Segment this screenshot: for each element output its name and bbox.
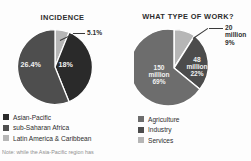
incidence-chart-panel: INCIDENCE 18% 26.4% 5.1% Asian-Pacific (0, 0, 125, 161)
callout-services-percent: 9% (225, 39, 246, 46)
work-type-chart-title: WHAT TYPE OF WORK? (125, 12, 251, 21)
work-type-chart-panel: WHAT TYPE OF WORK? 150 million 69% 48 mi… (125, 0, 251, 161)
slice-label-industry-percent: 22% (184, 70, 210, 77)
work-type-legend: Agriculture Industry Services (125, 114, 251, 146)
legend-swatch-icon-services (138, 137, 144, 143)
legend-swatch-icon-industry (138, 127, 144, 133)
legend-item-sub-saharan[interactable]: sub-Saharan Africa (3, 123, 128, 133)
legend-swatch-icon-latin-america (3, 135, 9, 141)
legend-item-industry[interactable]: Industry (138, 125, 251, 135)
legend-label-services: Services (148, 137, 173, 144)
incidence-pie-chart: 18% 26.4% (16, 28, 94, 106)
slice-label-agriculture-amount: 150 (142, 64, 176, 71)
legend-item-asian-pacific[interactable]: Asian-Pacific (3, 112, 128, 122)
legend-label-latin-america: Latin America & Caribbean (13, 135, 91, 142)
slice-label-agriculture: 150 million 69% (142, 64, 176, 85)
infographic-canvas: INCIDENCE 18% 26.4% 5.1% Asian-Pacific (0, 0, 251, 161)
leader-line-services-horizontal (209, 28, 223, 29)
legend-label-sub-saharan: sub-Saharan Africa (13, 124, 69, 131)
footnote-text: Note: while the Asia-Pacific region has (2, 149, 132, 155)
legend-label-industry: Industry (148, 126, 171, 133)
callout-latin-america: 5.1% (87, 29, 102, 36)
legend-item-latin-america[interactable]: Latin America & Caribbean (3, 133, 128, 143)
legend-swatch-icon-agriculture (138, 116, 144, 122)
legend-label-agriculture: Agriculture (148, 116, 180, 123)
leader-line-latin-america-horizontal (73, 33, 85, 34)
slice-label-industry: 48 million 22% (184, 56, 210, 77)
legend-item-agriculture[interactable]: Agriculture (138, 114, 251, 124)
legend-swatch-icon-sub-saharan (3, 125, 9, 131)
incidence-chart-title: INCIDENCE (0, 13, 125, 22)
legend-item-services[interactable]: Services (138, 135, 251, 145)
callout-services: 20 million 9% (225, 24, 246, 46)
slice-label-agriculture-unit: million (142, 71, 176, 78)
slice-label-asian-pacific: 18% (59, 61, 73, 69)
legend-swatch-icon-asian-pacific (3, 114, 9, 120)
slice-label-industry-unit: million (184, 63, 210, 70)
callout-services-amount: 20 (225, 24, 246, 31)
work-type-pie-chart: 150 million 69% 48 million 22% (134, 28, 214, 108)
slice-label-agriculture-percent: 69% (142, 78, 176, 85)
callout-services-unit: million (225, 31, 246, 38)
slice-label-sub-saharan: 26.4% (21, 61, 41, 69)
legend-label-asian-pacific: Asian-Pacific (13, 114, 51, 121)
incidence-legend: Asian-Pacific sub-Saharan Africa Latin A… (0, 112, 128, 144)
slice-label-industry-amount: 48 (184, 56, 210, 63)
